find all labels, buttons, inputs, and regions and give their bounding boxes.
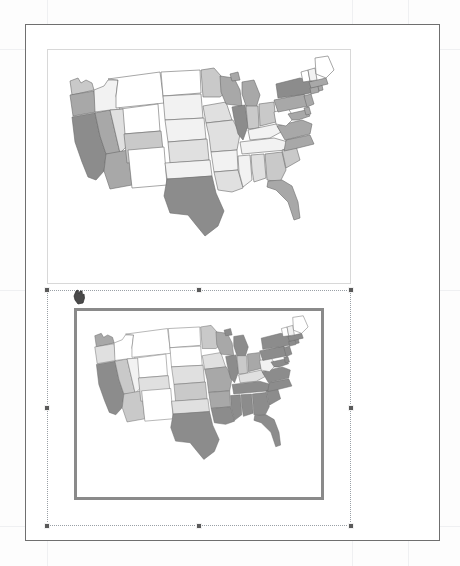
- handle-top-center[interactable]: [196, 287, 202, 293]
- us-choropleth-map-top: [48, 50, 350, 283]
- editor-canvas: [0, 0, 460, 566]
- map-image-2-frame[interactable]: [74, 308, 324, 500]
- handle-middle-right[interactable]: [348, 405, 354, 411]
- map-image-1-frame[interactable]: [47, 49, 351, 284]
- handle-bottom-left[interactable]: [44, 523, 50, 529]
- handle-bottom-right[interactable]: [348, 523, 354, 529]
- map-image-2-selection[interactable]: [47, 290, 351, 526]
- handle-middle-left[interactable]: [44, 405, 50, 411]
- us-choropleth-map-bottom: [77, 311, 321, 497]
- handle-top-right[interactable]: [348, 287, 354, 293]
- handle-top-left[interactable]: [44, 287, 50, 293]
- handle-bottom-center[interactable]: [196, 523, 202, 529]
